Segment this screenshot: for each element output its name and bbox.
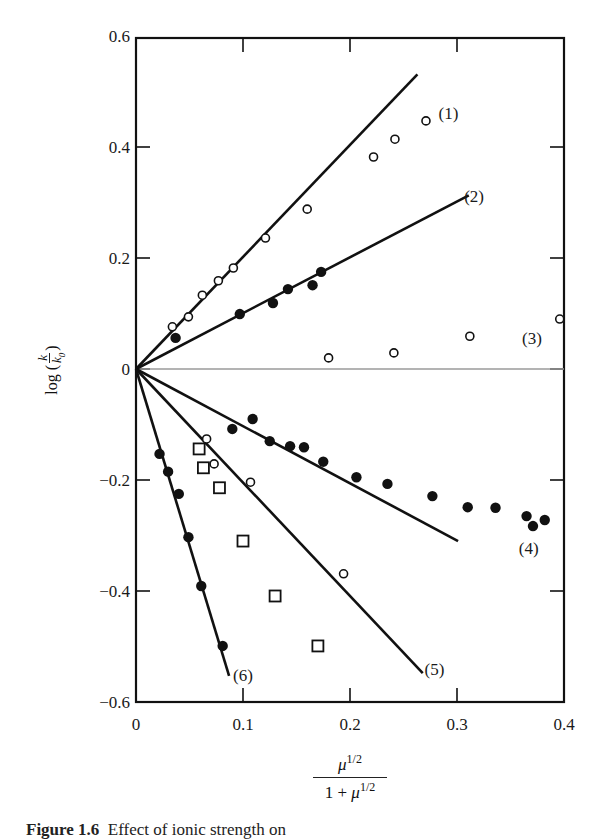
open-circle-marker: [340, 570, 348, 578]
open-circle-marker: [391, 135, 399, 143]
axis-ticks: 00.10.20.30.40.60.40.20−0.2−0.4−0.6: [99, 27, 575, 734]
filled-circle-marker: [540, 515, 550, 525]
open-circle-marker: [466, 332, 474, 340]
open-circle-marker: [214, 277, 222, 285]
filled-circle-marker: [318, 456, 328, 466]
filled-circle-marker: [170, 333, 180, 343]
y-tick-label: 0.2: [109, 249, 130, 268]
data-points: [154, 117, 563, 652]
filled-circle-marker: [268, 298, 278, 308]
filled-circle-marker: [174, 489, 184, 499]
y-axis-title-numerator: k: [36, 353, 50, 363]
open-circle-marker: [556, 315, 564, 323]
series-label-1: (1): [439, 104, 459, 123]
figure-caption-label: Figure 1.6: [26, 820, 99, 839]
filled-circle-marker: [528, 521, 538, 531]
filled-circle-marker: [299, 442, 309, 452]
x-axis-title-num-sup: 1/2: [347, 752, 362, 766]
open-circle-marker: [303, 205, 311, 213]
filled-circle-marker: [183, 532, 193, 542]
x-axis-title: μ1/2 1 + μ1/2: [300, 752, 400, 802]
x-tick-label: 0.2: [339, 715, 360, 734]
filled-circle-marker: [247, 414, 257, 424]
x-axis-title-den-mu: μ: [351, 782, 360, 801]
y-axis-title-den-sub: 0: [56, 353, 66, 358]
filled-circle-marker: [283, 284, 293, 294]
filled-circle-marker: [382, 479, 392, 489]
filled-circle-marker: [316, 267, 326, 277]
open-square-marker: [194, 443, 205, 454]
y-tick-label: 0.4: [109, 138, 131, 157]
series-label-6: (6): [233, 666, 253, 685]
series-label-4: (4): [519, 539, 539, 558]
x-tick-label: 0.1: [232, 715, 253, 734]
plot-border: [136, 38, 564, 702]
filled-circle-marker: [351, 472, 361, 482]
y-tick-label: −0.6: [99, 693, 130, 712]
x-tick-label: 0.3: [446, 715, 467, 734]
open-circle-marker: [246, 478, 254, 486]
filled-circle-marker: [285, 441, 295, 451]
open-circle-marker: [261, 234, 269, 242]
filled-circle-marker: [235, 309, 245, 319]
open-square-marker: [270, 590, 281, 601]
fit-lines: [136, 74, 469, 676]
x-tick-label: 0: [132, 715, 141, 734]
open-circle-marker: [168, 323, 176, 331]
filled-circle-marker: [154, 449, 164, 459]
open-square-marker: [198, 462, 209, 473]
filled-circle-marker: [196, 581, 206, 591]
filled-circle-marker: [217, 641, 227, 651]
fit-line-4: [136, 369, 458, 541]
x-axis-title-numerator: μ1/2: [313, 752, 387, 778]
filled-circle-marker: [521, 511, 531, 521]
filled-circle-marker: [427, 491, 437, 501]
open-square-marker: [214, 482, 225, 493]
series-label-3: (3): [522, 329, 542, 348]
y-tick-label: 0.6: [109, 27, 130, 46]
filled-circle-marker: [163, 466, 173, 476]
y-axis-title-prefix: log (: [43, 365, 61, 395]
plot-frame: [136, 38, 564, 702]
y-axis-title: log ( k k0 ): [22, 340, 82, 400]
fit-line-2: [136, 195, 469, 369]
y-axis-title-denominator: k0: [50, 353, 69, 363]
fit-line-5: [136, 369, 423, 673]
x-tick-label: 0.4: [553, 715, 575, 734]
y-axis-title-den-k: k: [49, 357, 64, 363]
y-tick-label: 0: [122, 360, 131, 379]
open-circle-marker: [184, 313, 192, 321]
filled-circle-marker: [490, 503, 500, 513]
y-axis-title-suffix: ): [43, 345, 61, 350]
filled-circle-marker: [265, 436, 275, 446]
open-circle-marker: [370, 153, 378, 161]
open-square-marker: [312, 640, 323, 651]
x-axis-title-den-sup: 1/2: [360, 780, 375, 794]
open-circle-marker: [198, 291, 206, 299]
figure-caption: Figure 1.6 Effect of ionic strength on: [26, 820, 286, 840]
filled-circle-marker: [227, 424, 237, 434]
x-axis-title-denominator: 1 + μ1/2: [325, 778, 375, 803]
series-label-2: (2): [464, 187, 484, 206]
figure-caption-text: Effect of ionic strength on: [108, 820, 286, 839]
open-circle-marker: [325, 354, 333, 362]
open-circle-marker: [203, 435, 211, 443]
y-axis-title-fraction: k k0: [36, 353, 69, 363]
fit-line-6: [136, 369, 229, 676]
y-tick-label: −0.4: [99, 582, 130, 601]
x-axis-title-mu: μ: [338, 755, 347, 774]
fit-line-1: [136, 74, 417, 369]
y-tick-label: −0.2: [99, 471, 130, 490]
series-label-5: (5): [425, 660, 445, 679]
open-circle-marker: [390, 349, 398, 357]
open-square-marker: [238, 536, 249, 547]
open-circle-marker: [229, 264, 237, 272]
filled-circle-marker: [463, 502, 473, 512]
open-circle-marker: [210, 460, 218, 468]
x-axis-title-one-plus: 1 +: [325, 782, 352, 801]
filled-circle-marker: [307, 280, 317, 290]
open-circle-marker: [422, 117, 430, 125]
